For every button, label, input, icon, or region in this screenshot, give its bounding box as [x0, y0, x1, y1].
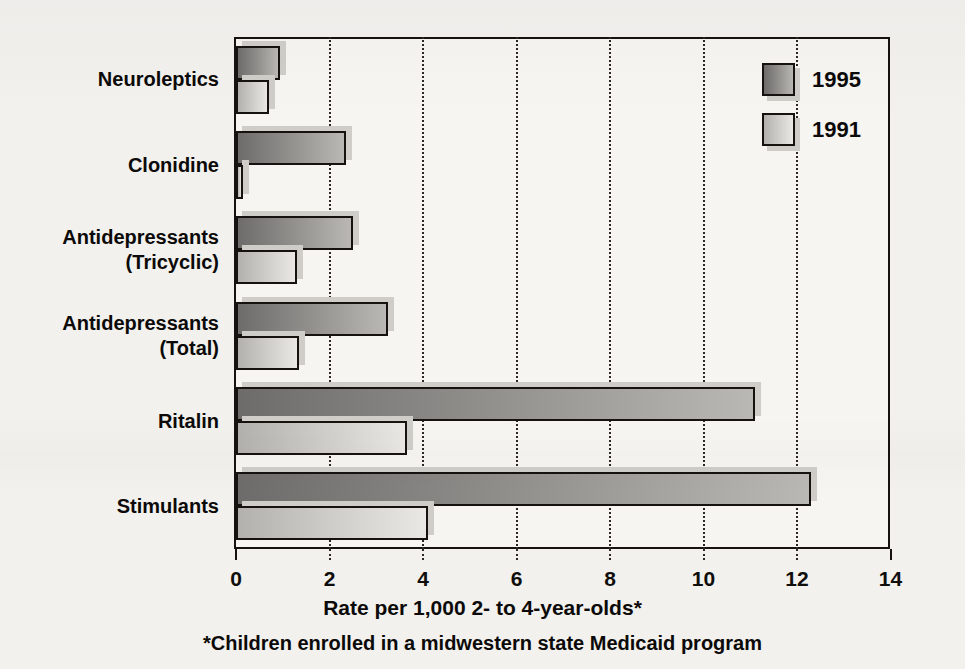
legend-label-1995: 1995	[812, 67, 861, 93]
xaxis-title: Rate per 1,000 2- to 4-year-olds*	[0, 596, 965, 620]
xtick-label-2: 2	[300, 567, 360, 591]
xtick-2	[329, 549, 331, 560]
bar-shadow	[242, 160, 249, 194]
category-label-antidepressants-total: Antidepressants(Total)	[0, 311, 230, 361]
category-label-line: Ritalin	[0, 409, 219, 434]
xtick-0	[235, 549, 237, 560]
xtick-10	[703, 549, 705, 560]
category-label-line: Antidepressants	[0, 225, 219, 250]
xtick-label-0: 0	[206, 567, 266, 591]
chart-figure: 02468101214 NeurolepticsClonidineAntidep…	[0, 0, 965, 669]
category-label-line: Antidepressants	[0, 311, 219, 336]
xtick-6	[516, 549, 518, 560]
legend-swatch-wrap-1995	[762, 63, 795, 96]
bar-1991-antidepressants-total	[236, 336, 299, 370]
legend-label-1991: 1991	[812, 117, 861, 143]
xtick-label-10: 10	[674, 567, 734, 591]
category-label-ritalin: Ritalin	[0, 409, 230, 434]
xtick-8	[609, 549, 611, 560]
category-label-neuroleptics: Neuroleptics	[0, 67, 230, 92]
xtick-4	[422, 549, 424, 560]
xtick-label-12: 12	[767, 567, 827, 591]
category-label-clonidine: Clonidine	[0, 153, 230, 178]
bar-1991-ritalin	[236, 421, 407, 455]
xtick-label-8: 8	[580, 567, 640, 591]
chart-footnote: *Children enrolled in a midwestern state…	[0, 632, 965, 655]
bar-1991-clonidine	[236, 165, 243, 199]
category-label-antidepressants-tricyclic: Antidepressants(Tricyclic)	[0, 225, 230, 275]
xtick-label-4: 4	[393, 567, 453, 591]
legend-entry-1991: 1991	[762, 113, 861, 146]
bar-1991-stimulants	[236, 506, 428, 540]
category-label-line: (Tricyclic)	[0, 250, 219, 275]
legend-swatch-1991	[762, 113, 795, 146]
legend-entry-1995: 1995	[762, 63, 861, 96]
xtick-label-6: 6	[487, 567, 547, 591]
category-label-line: Clonidine	[0, 153, 219, 178]
legend-swatch-wrap-1991	[762, 113, 795, 146]
xtick-12	[796, 549, 798, 560]
category-label-line: Stimulants	[0, 494, 219, 519]
xtick-14	[890, 549, 892, 560]
legend-swatch-1995	[762, 63, 795, 96]
category-label-line: Neuroleptics	[0, 67, 219, 92]
bar-1991-neuroleptics	[236, 80, 269, 114]
category-label-line: (Total)	[0, 336, 219, 361]
category-label-stimulants: Stimulants	[0, 494, 230, 519]
bar-1995-clonidine	[236, 131, 346, 165]
xtick-label-14: 14	[861, 567, 921, 591]
bar-1991-antidepressants-tricyclic	[236, 250, 297, 284]
